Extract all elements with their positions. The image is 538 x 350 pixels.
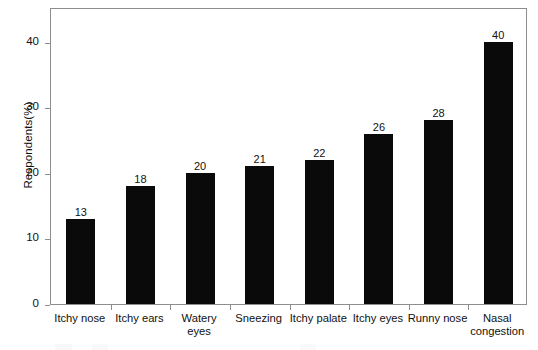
bar-value-label: 13: [61, 206, 101, 218]
y-axis-tick-label: 20: [26, 166, 39, 178]
bar[interactable]: [126, 186, 155, 304]
bar-chart-figure: Respondents(%) 010203040 131820212226284…: [0, 0, 538, 350]
bar-value-label: 21: [240, 153, 280, 165]
x-axis-tick-mark: [170, 305, 171, 310]
x-axis-category-label-line: Watery: [182, 312, 217, 324]
bar[interactable]: [424, 120, 453, 304]
x-axis-tick-mark: [230, 305, 231, 310]
bar[interactable]: [66, 219, 95, 304]
y-axis-tick-label: 40: [26, 35, 39, 47]
x-axis-category-label-line: eyes: [165, 325, 233, 338]
x-axis-category-label-line: Itchy eyes: [353, 312, 403, 324]
bar-value-label: 22: [299, 147, 339, 159]
x-axis-category-label-line: Itchy palate: [290, 312, 347, 324]
x-axis-tick-mark: [290, 305, 291, 310]
x-axis-category-label: Itchy nose: [46, 312, 114, 325]
x-axis-category-label-line: Runny nose: [408, 312, 468, 324]
x-axis-category-label-line: Nasal: [483, 312, 512, 324]
bar[interactable]: [305, 160, 334, 304]
x-axis-tick-mark: [468, 305, 469, 310]
y-axis-tick-label: 0: [33, 297, 39, 309]
x-axis-tick-mark: [349, 305, 350, 310]
x-axis-category-label-line: Sneezing: [235, 312, 282, 324]
y-axis-tick-label: 10: [26, 231, 39, 243]
x-axis-category-label-line: Itchy ears: [115, 312, 164, 324]
x-axis-category-label: Itchy palate: [285, 312, 353, 325]
x-axis-category-label-line: congestion: [463, 325, 531, 338]
bar[interactable]: [364, 134, 393, 304]
bar-value-label: 40: [478, 29, 518, 41]
plot-area: 1318202122262840: [50, 8, 527, 305]
x-axis-category-label: Itchy ears: [106, 312, 174, 325]
bar[interactable]: [245, 166, 274, 304]
x-axis-tick-mark: [111, 305, 112, 310]
bar[interactable]: [186, 173, 215, 304]
bar-value-label: 18: [120, 173, 160, 185]
x-axis-category-label: Sneezing: [225, 312, 293, 325]
x-axis-category-label: Nasalcongestion: [463, 312, 531, 337]
x-axis-category-label: Itchy eyes: [344, 312, 412, 325]
scan-artifact: [0, 344, 538, 350]
x-axis-category-label-line: Itchy nose: [54, 312, 105, 324]
y-axis-tick-label: 30: [26, 100, 39, 112]
bar-value-label: 20: [180, 160, 220, 172]
bar-value-label: 26: [359, 121, 399, 133]
y-axis-title: Respondents(%): [22, 65, 34, 225]
y-axis-tick-mark: [45, 305, 50, 306]
bar-value-label: 28: [419, 107, 459, 119]
bar[interactable]: [484, 42, 513, 304]
x-axis-category-label: Runny nose: [404, 312, 472, 325]
x-axis-category-label: Wateryeyes: [165, 312, 233, 337]
x-axis-tick-mark: [409, 305, 410, 310]
